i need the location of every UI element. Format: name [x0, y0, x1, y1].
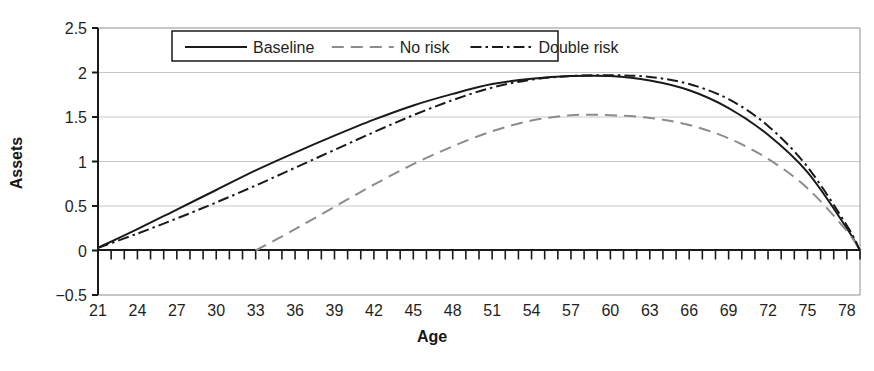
chart-legend: BaselineNo riskDouble risk — [172, 31, 620, 61]
x-tick-label: 24 — [129, 302, 147, 319]
x-tick-label: 27 — [168, 302, 186, 319]
legend-label-no-risk: No risk — [400, 39, 451, 56]
x-tick-label: 33 — [247, 302, 265, 319]
y-tick-label: 1.5 — [65, 109, 87, 126]
x-tick-label: 54 — [523, 302, 541, 319]
y-tick-label: 2.5 — [65, 20, 87, 37]
x-tick-label: 69 — [720, 302, 738, 319]
x-tick-label: 75 — [799, 302, 817, 319]
y-tick-label: 2 — [78, 65, 87, 82]
x-tick-label: 60 — [601, 302, 619, 319]
chart-figure: −0.500.511.522.5 21242730333639424548515… — [0, 0, 874, 371]
x-tick-label: 57 — [562, 302, 580, 319]
legend-label-double-risk: Double risk — [539, 39, 620, 56]
legend-label-baseline: Baseline — [253, 39, 314, 56]
x-tick-label: 42 — [365, 302, 383, 319]
x-tick-label: 21 — [89, 302, 107, 319]
x-tick-label: 48 — [444, 302, 462, 319]
y-axis-tick-labels: −0.500.511.522.5 — [55, 20, 87, 304]
x-tick-label: 36 — [286, 302, 304, 319]
y-tick-label: 0.5 — [65, 198, 87, 215]
y-axis-title: Assets — [8, 137, 25, 190]
y-tick-label: 0 — [78, 243, 87, 260]
x-axis-title: Age — [417, 328, 447, 345]
y-tick-label: 1 — [78, 154, 87, 171]
x-tick-label: 78 — [838, 302, 856, 319]
x-tick-label: 51 — [483, 302, 501, 319]
x-axis-tick-labels: 2124273033363942454851545760636669727578 — [89, 302, 856, 319]
x-tick-label: 39 — [326, 302, 344, 319]
x-tick-label: 45 — [404, 302, 422, 319]
assets-by-age-line-chart: −0.500.511.522.5 21242730333639424548515… — [0, 0, 874, 371]
y-tick-label: −0.5 — [55, 287, 87, 304]
x-tick-label: 63 — [641, 302, 659, 319]
x-tick-label: 30 — [207, 302, 225, 319]
x-tick-label: 66 — [680, 302, 698, 319]
x-tick-label: 72 — [759, 302, 777, 319]
